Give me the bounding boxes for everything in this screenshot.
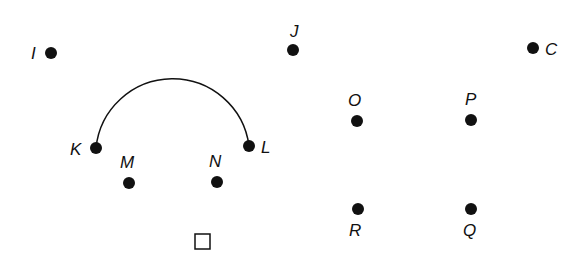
point-j-label: J [289, 22, 299, 41]
point-c-dot [527, 42, 539, 54]
points-group: IJCKLMNOPRQ [31, 22, 558, 240]
point-k-dot [90, 142, 102, 154]
diagram-canvas: IJCKLMNOPRQ [0, 0, 585, 271]
point-m-dot [123, 177, 135, 189]
point-l-dot [243, 140, 255, 152]
point-n-dot [211, 176, 223, 188]
point-m-label: M [120, 153, 135, 172]
point-q-label: Q [463, 221, 476, 240]
point-k-label: K [70, 140, 82, 159]
semicircle-arc [96, 79, 249, 148]
point-r-dot [352, 203, 364, 215]
diagram-svg: IJCKLMNOPRQ [0, 0, 585, 271]
point-q-dot [465, 203, 477, 215]
point-l-label: L [261, 138, 270, 157]
point-i-label: I [31, 44, 36, 63]
point-i-dot [45, 47, 57, 59]
point-p-dot [465, 114, 477, 126]
point-n-label: N [209, 152, 222, 171]
empty-square [195, 234, 210, 249]
point-o-label: O [348, 91, 361, 110]
point-j-dot [287, 44, 299, 56]
point-c-label: C [545, 40, 558, 59]
point-p-label: P [465, 90, 477, 109]
point-r-label: R [349, 221, 361, 240]
point-o-dot [351, 115, 363, 127]
